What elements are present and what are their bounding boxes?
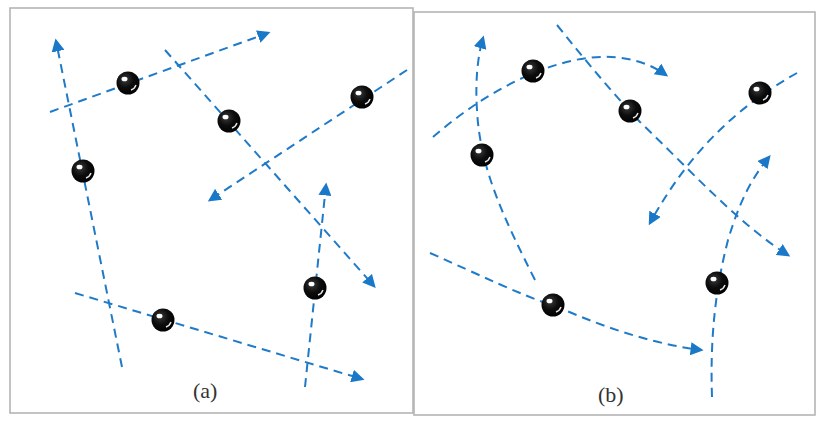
trajectory-b5 xyxy=(430,253,701,350)
dashed-curve-path xyxy=(430,253,701,350)
trajectory-b1 xyxy=(433,57,666,137)
particle-ball-icon xyxy=(619,100,642,123)
particle-ball-icon xyxy=(72,160,95,183)
particle-ball-icon xyxy=(542,294,565,317)
dashed-curve-path xyxy=(650,73,797,223)
particle-ball-icon xyxy=(351,86,374,109)
particle-ball-icon xyxy=(522,60,545,83)
dashed-arrow-path xyxy=(165,50,374,286)
particle-ball-icon xyxy=(117,72,140,95)
trajectory-a2 xyxy=(165,50,374,286)
trajectory-b3 xyxy=(650,73,797,223)
particles-a xyxy=(72,72,374,332)
particle-ball-icon xyxy=(218,110,241,133)
particle-ball-icon xyxy=(706,272,729,295)
trajectory-a5 xyxy=(75,293,362,379)
panel-a-caption: (a) xyxy=(193,378,217,404)
dashed-arrow-path xyxy=(75,293,362,379)
panel-b xyxy=(414,12,815,415)
dashed-curve-path xyxy=(557,25,788,255)
dashed-curve-path xyxy=(433,57,666,137)
dashed-arrow-path xyxy=(50,33,268,112)
panel-a xyxy=(10,8,413,413)
particle-ball-icon xyxy=(471,144,494,167)
panel-b-border xyxy=(414,12,815,415)
figure-canvas xyxy=(0,0,825,427)
particle-ball-icon xyxy=(304,277,327,300)
panel-b-caption: (b) xyxy=(598,382,624,408)
panel-a-border xyxy=(10,8,413,413)
particle-ball-icon xyxy=(749,82,772,105)
trajectory-b2 xyxy=(557,25,788,255)
particles-b xyxy=(471,60,772,317)
trajectory-a1 xyxy=(50,33,268,112)
particle-ball-icon xyxy=(152,309,175,332)
